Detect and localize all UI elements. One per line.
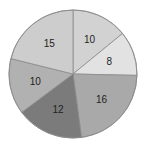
slice-value-label: 16 (96, 94, 108, 105)
slice-value-label: 10 (30, 76, 42, 87)
slice-value-label: 15 (44, 38, 56, 49)
pie-chart: 10816121015 (0, 0, 146, 145)
slice-value-label: 12 (53, 104, 65, 115)
pie-slice (73, 74, 137, 137)
pie-slices (9, 10, 137, 138)
slice-value-label: 10 (84, 34, 96, 45)
slice-value-label: 8 (107, 56, 113, 67)
